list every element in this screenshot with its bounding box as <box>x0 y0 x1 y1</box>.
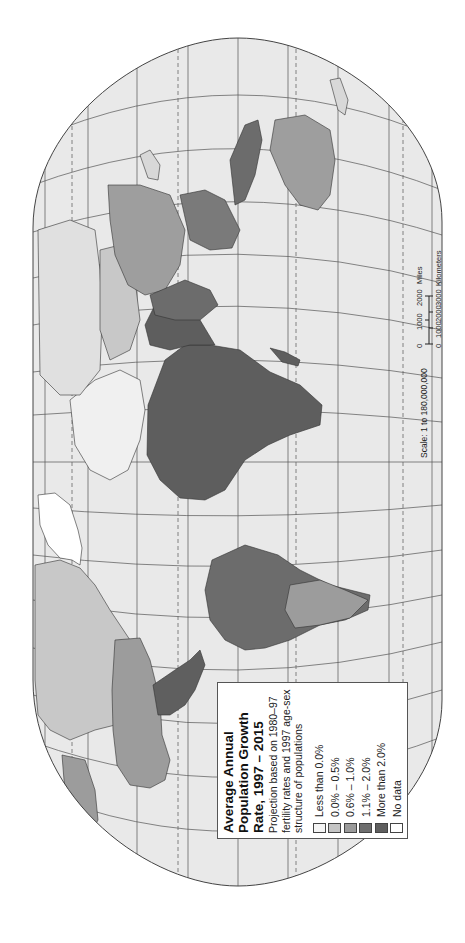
legend-title: Average Annual Population Growth Rate, 1… <box>221 688 266 833</box>
legend-label: 1.1% – 2.0% <box>360 757 372 817</box>
scale-km-0: 0 <box>434 344 443 348</box>
scale-miles-0: 0 <box>415 344 424 348</box>
legend-swatch <box>344 823 357 833</box>
scale-km-label: Kilometers <box>434 251 443 286</box>
legend-title-line: Average Annual <box>221 688 236 833</box>
russia <box>38 220 102 395</box>
legend-subtitle: Projection based on 1980–97 fertility ra… <box>267 688 305 833</box>
legend-label: 0.6% – 1.0% <box>344 757 356 817</box>
scale-km-2000: 2000 <box>434 305 443 322</box>
legend-item: Less than 0.0% <box>312 688 328 833</box>
legend-swatch <box>375 823 388 833</box>
scale-miles-1000: 1000 <box>415 313 424 330</box>
legend-title-line: Rate, 1997 – 2015 <box>251 688 266 833</box>
legend-label: No data <box>391 780 403 817</box>
scale-km-1000: 1000 <box>434 321 443 338</box>
legend-item: No data <box>389 688 405 833</box>
legend-item: 0.6% – 1.0% <box>343 688 359 833</box>
scale-miles-2000: 2000 <box>415 289 424 306</box>
scale-km-3000: 3000 <box>434 289 443 306</box>
legend-swatch <box>390 823 403 833</box>
legend: Average Annual Population Growth Rate, 1… <box>217 682 408 839</box>
legend-swatch <box>359 823 372 833</box>
scale-miles-label: Miles <box>415 266 424 284</box>
legend-item: More than 2.0% <box>374 688 390 833</box>
legend-swatch <box>313 823 326 833</box>
legend-item: 0.0% – 0.5% <box>327 688 343 833</box>
legend-title-line: Population Growth <box>236 688 251 833</box>
legend-label: 0.0% – 0.5% <box>329 757 341 817</box>
scale-bar: 0 1000 2000 Miles 0 1000 2000 3000 Kilom… <box>407 262 447 512</box>
scale-ratio: Scale: 1 to 180,000,000 <box>419 368 429 458</box>
legend-item: 1.1% – 2.0% <box>358 688 374 833</box>
legend-label: More than 2.0% <box>375 743 387 817</box>
legend-label: Less than 0.0% <box>313 745 325 817</box>
legend-swatch <box>328 823 341 833</box>
